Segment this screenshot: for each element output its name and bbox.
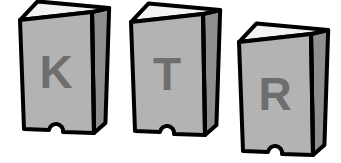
block-t[interactable]: T xyxy=(131,3,220,135)
illustration-canvas: KTR xyxy=(0,0,341,163)
block-k-label: K xyxy=(39,46,72,98)
block-r-label: R xyxy=(258,68,291,120)
block-r-edge-seam xyxy=(311,34,313,155)
blocks-group: KTR xyxy=(20,1,328,155)
block-k[interactable]: K xyxy=(20,1,109,133)
block-k-edge-seam xyxy=(92,12,94,133)
block-t-edge-seam xyxy=(203,14,205,135)
block-r[interactable]: R xyxy=(239,23,328,155)
block-t-label: T xyxy=(153,48,181,100)
blocks-illustration: KTR xyxy=(0,0,341,163)
